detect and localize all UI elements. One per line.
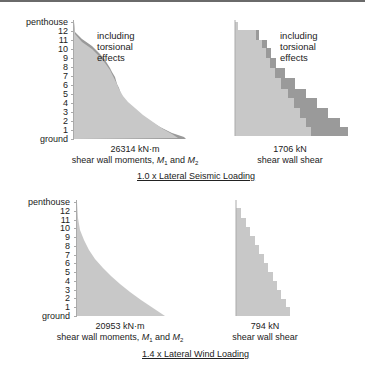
floor-label: ground <box>14 312 70 321</box>
seismic-shear-caption: shear wall shear <box>250 155 330 165</box>
seismic-moment-value: 26314 kN·m <box>60 144 210 154</box>
wind-shear-value: 794 kN <box>225 321 305 331</box>
caption-text: and <box>168 155 188 165</box>
floor-label: 2 <box>14 294 70 303</box>
floor-label: 6 <box>12 81 68 90</box>
floor-label: 5 <box>12 90 68 99</box>
wind-shear-caption: shear wall shear <box>225 332 305 342</box>
floor-label: 7 <box>12 72 68 81</box>
wind-section-title: 1.4 x Lateral Wind Loading <box>142 349 249 359</box>
floor-label: 10 <box>12 45 68 54</box>
floor-label: 8 <box>12 63 68 72</box>
annotation-line: including <box>97 30 135 41</box>
wind-moment-chart <box>74 200 165 317</box>
caption-subscript: 2 <box>180 337 183 343</box>
annotation-line: effects <box>97 52 135 63</box>
caption-subscript: 2 <box>195 160 198 166</box>
floor-label: 8 <box>14 242 70 251</box>
wind-shear-chart <box>236 200 290 316</box>
floor-label: 2 <box>12 117 68 126</box>
wind-moment-caption: shear wall moments, M1 and M2 <box>45 332 195 343</box>
seismic-moment-caption: shear wall moments, M1 and M2 <box>60 155 210 166</box>
caption-symbol-m2: M <box>188 155 196 165</box>
seismic-shear-annotation: including torsional effects <box>280 30 318 63</box>
floor-label: 3 <box>12 108 68 117</box>
caption-symbol-m2: M <box>173 332 181 342</box>
annotation-line: effects <box>280 52 318 63</box>
caption-text: and <box>153 332 173 342</box>
seismic-moment-annotation: including torsional effects <box>97 30 135 63</box>
floor-label: 4 <box>12 99 68 108</box>
wind-moment-area <box>77 202 165 316</box>
wind-moment-value: 20953 kN·m <box>45 321 195 331</box>
floor-label: 9 <box>14 233 70 242</box>
floor-label: ground <box>12 135 68 144</box>
floor-label: 4 <box>14 277 70 286</box>
annotation-line: including <box>280 30 318 41</box>
caption-text: shear wall moments, <box>57 332 142 342</box>
floor-label: 5 <box>14 268 70 277</box>
floor-label: 9 <box>12 54 68 63</box>
annotation-line: torsional <box>97 41 135 52</box>
seismic-shear-value: 1706 kN <box>250 144 330 154</box>
floor-label: 6 <box>14 259 70 268</box>
wind-shear-area <box>236 208 290 316</box>
annotation-line: torsional <box>280 41 318 52</box>
caption-text: shear wall moments, <box>72 155 157 165</box>
seismic-section-title: 1.0 x Lateral Seismic Loading <box>137 171 255 181</box>
floor-label: 10 <box>14 224 70 233</box>
